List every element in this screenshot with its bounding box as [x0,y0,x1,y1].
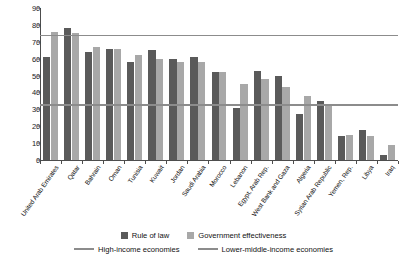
x-axis-label: Algeria [295,164,312,184]
legend-row-series: Rule of law Government effectiveness [0,228,407,242]
x-axis-tick-mark [251,161,252,164]
bar-government-effectiveness [135,55,142,160]
chart-legend: Rule of law Government effectiveness Hig… [0,228,407,256]
legend-swatch-icon-government-effectiveness [187,232,194,239]
x-axis-tick-mark [145,161,146,164]
bar-government-effectiveness [51,32,58,160]
x-axis-tick-mark [187,161,188,164]
bar-government-effectiveness [388,145,395,160]
reference-line-high-income [40,35,398,36]
bar-government-effectiveness [177,62,184,160]
bar-government-effectiveness [261,79,268,160]
bar-government-effectiveness [367,136,374,160]
x-axis-label: West Bank and Gaza [251,164,291,217]
legend-label-high-income-economies: High-income economies [98,245,179,254]
x-axis-line [40,160,398,161]
x-axis-tick-mark [103,161,104,164]
x-axis-label: Kuwait [148,164,165,184]
bar-government-effectiveness [72,33,79,160]
legend-line-icon-lower-middle-income [198,248,218,250]
plot-area [40,8,398,160]
bar-rule-of-law [212,72,219,160]
bar-rule-of-law [317,101,324,160]
bars-layer [40,8,398,160]
bar-government-effectiveness [156,59,163,160]
x-axis-label: Oman [107,164,123,182]
bar-rule-of-law [254,71,261,161]
x-axis-tick-mark [166,161,167,164]
x-axis-label: United Arab Emirates [19,164,59,217]
x-axis-label: Iraq [384,164,396,177]
x-axis-tick-mark [208,161,209,164]
legend-label-government-effectiveness: Government effectiveness [198,231,286,240]
x-axis-tick-mark [272,161,273,164]
legend-item-government-effectiveness: Government effectiveness [187,231,286,240]
x-axis-tick-mark [377,161,378,164]
bar-rule-of-law [359,130,366,160]
x-axis-label: Jordan [169,164,186,184]
x-axis-tick-mark [398,161,399,164]
x-axis-tick-mark [335,161,336,164]
x-axis-label: Qatar [65,164,80,181]
x-axis-tick-mark [61,161,62,164]
x-axis-tick-mark [124,161,125,164]
bar-rule-of-law [64,28,71,160]
legend-line-icon-high-income [74,248,94,250]
legend-item-high-income-economies: High-income economies [74,245,179,254]
x-axis-label: Bahrain [83,164,101,186]
x-axis-label: Libya [361,164,375,181]
bar-rule-of-law [380,155,387,160]
legend-item-lower-middle-income-economies: Lower-middle-income economies [198,245,333,254]
x-axis-label: Morocco [208,164,228,188]
bar-government-effectiveness [240,84,247,160]
bar-government-effectiveness [346,135,353,160]
bar-rule-of-law [85,52,92,160]
x-axis-label: Tunisia [126,164,143,185]
x-axis-tick-mark [356,161,357,164]
bar-government-effectiveness [219,72,226,160]
bar-rule-of-law [275,76,282,160]
x-axis-tick-mark [293,161,294,164]
bar-government-effectiveness [282,87,289,160]
legend-label-lower-middle-income-economies: Lower-middle-income economies [222,245,333,254]
bar-rule-of-law [190,57,197,160]
bar-rule-of-law [43,57,50,160]
bar-rule-of-law [233,108,240,160]
bar-rule-of-law [338,136,345,160]
bar-government-effectiveness [325,104,332,160]
reference-line-lower-middle-income [40,104,398,105]
bar-government-effectiveness [198,62,205,160]
legend-row-reference-lines: High-income economies Lower-middle-incom… [0,242,407,256]
x-axis-tick-mark [40,161,41,164]
x-axis-tick-mark [230,161,231,164]
legend-item-rule-of-law: Rule of law [121,231,170,240]
x-axis-tick-mark [314,161,315,164]
bar-rule-of-law [296,114,303,160]
chart-container: 0102030405060708090 United Arab Emirates… [0,0,407,270]
x-axis-label: Lebanon [229,164,249,188]
legend-label-rule-of-law: Rule of law [132,231,170,240]
bar-rule-of-law [169,59,176,160]
legend-swatch-icon-rule-of-law [121,232,128,239]
x-axis-tick-mark [82,161,83,164]
bar-rule-of-law [127,62,134,160]
